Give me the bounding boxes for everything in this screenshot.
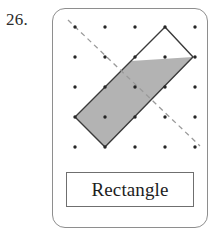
shape-label-text: Rectangle [92,180,169,199]
problem-number: 26. [6,11,28,28]
worksheet-problem-card: 26. Rectangle [0,0,224,235]
shape-label-box: Rectangle [66,172,194,207]
